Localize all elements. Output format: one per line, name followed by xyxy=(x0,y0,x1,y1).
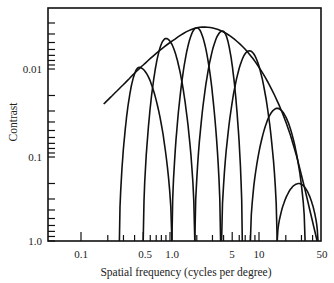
x-tick-label-0.1: 0.1 xyxy=(74,248,88,260)
y-axis-ticks xyxy=(48,23,55,241)
channel-curve-7 xyxy=(277,184,318,242)
plot-frame xyxy=(48,8,321,241)
x-axis-title: Spatial frequency (cycles per degree) xyxy=(100,266,271,279)
y-axis-title: Contrast xyxy=(7,102,19,142)
contrast-sensitivity-chart: 0.01 0.1 1.0 0.1 0.5 1.0 5 10 50 Spatial… xyxy=(0,0,334,283)
y-tick-label-0.01: 0.01 xyxy=(23,63,42,75)
channel-curve-4 xyxy=(195,31,243,241)
x-tick-label-0.5: 0.5 xyxy=(138,248,152,260)
channel-curve-6 xyxy=(250,108,305,241)
y-tick-label-1.0: 1.0 xyxy=(28,235,42,247)
x-tick-label-1.0: 1.0 xyxy=(165,248,179,260)
channel-curve-2 xyxy=(143,39,195,242)
x-tick-label-10: 10 xyxy=(254,248,266,260)
y-tick-label-0.1: 0.1 xyxy=(28,151,42,163)
x-tick-label-5: 5 xyxy=(229,248,235,260)
channel-curve-5 xyxy=(222,51,278,241)
channel-curves xyxy=(104,27,318,241)
x-tick-label-50: 50 xyxy=(317,248,329,260)
